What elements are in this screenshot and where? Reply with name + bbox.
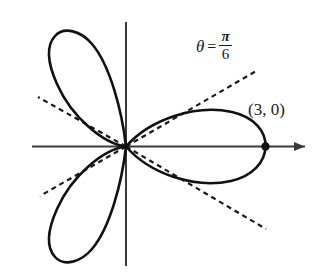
- theta-angle-label: θ = π 6: [196, 30, 232, 63]
- pi-over-six-fraction: π 6: [219, 29, 231, 62]
- rose-petal-lower-left: [49, 147, 126, 263]
- polar-plot-svg: [0, 0, 320, 272]
- point-coordinate-label: (3, 0): [248, 100, 285, 120]
- dashed-line-30deg: [126, 70, 258, 147]
- fraction-denominator-six: 6: [220, 46, 232, 62]
- polar-rose-figure: θ = π 6 (3, 0): [0, 0, 320, 272]
- dashed-line-330deg: [126, 147, 266, 230]
- theta-symbol: θ: [196, 37, 204, 57]
- fraction-numerator-pi: π: [219, 29, 231, 45]
- point-marker-3-0: [261, 142, 269, 150]
- dashed-angle-lines-group: [38, 70, 266, 229]
- equals-sign: =: [207, 38, 216, 56]
- x-axis-arrowhead: [294, 142, 305, 151]
- rose-petal-upper-left: [49, 31, 126, 147]
